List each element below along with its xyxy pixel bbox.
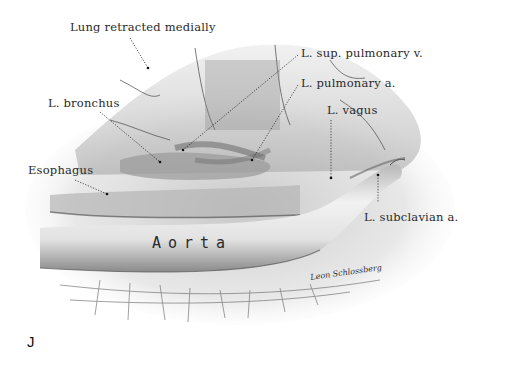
- label-vagus: L. vagus: [327, 103, 378, 117]
- label-esophagus: Esophagus: [28, 163, 93, 177]
- label-subclavian-artery: L. subclavian a.: [364, 210, 458, 224]
- label-pulmonary-artery: L. pulmonary a.: [301, 76, 396, 90]
- label-aorta: Aorta: [152, 234, 232, 252]
- label-lung-retracted: Lung retracted medially: [70, 20, 216, 34]
- anatomical-illustration: [0, 0, 510, 370]
- mediastinum-shading: [205, 60, 280, 130]
- panel-letter: J: [27, 333, 35, 350]
- label-sup-pulmonary-vein: L. sup. pulmonary v.: [301, 46, 423, 60]
- label-bronchus: L. bronchus: [48, 96, 120, 110]
